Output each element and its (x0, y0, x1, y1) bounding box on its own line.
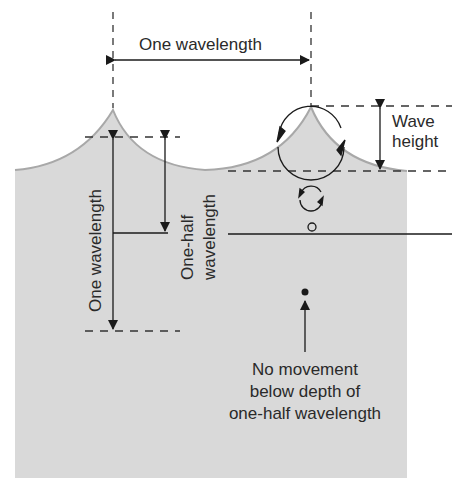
label-one-wavelength-top: One wavelength (139, 35, 262, 55)
label-wave-height-1: Wave (392, 112, 435, 132)
label-wave-height-2: height (392, 132, 438, 152)
label-one-half-2: wavelength (200, 194, 220, 280)
label-no-movement-3: one-half wavelength (210, 404, 400, 424)
no-motion-dot (302, 289, 309, 296)
wave-diagram (0, 0, 466, 499)
label-no-movement-1: No movement (210, 360, 400, 380)
label-one-half-1: One-half (178, 215, 198, 280)
label-no-movement-2: below depth of (210, 382, 400, 402)
label-one-wavelength-vertical: One wavelength (86, 189, 106, 312)
